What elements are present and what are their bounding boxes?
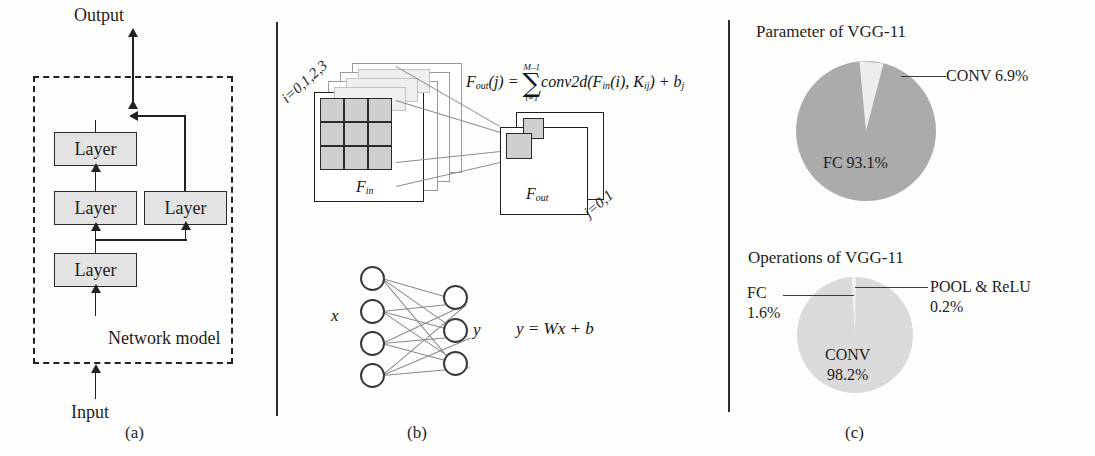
layer-box-middle[interactable]: Layer — [54, 191, 137, 225]
pie2-label-conv-line2: 98.2% — [827, 366, 868, 383]
pie1-leader-line — [901, 76, 946, 77]
branch-tap-horizontal — [95, 239, 187, 241]
fc-output-node-3 — [443, 351, 468, 376]
fin-symbol: F — [356, 178, 366, 195]
panel-a-caption: (a) — [125, 424, 144, 441]
pie2-label-pool-relu-line1: POOL & ReLU — [930, 278, 1031, 295]
fin-subscript: in — [366, 185, 374, 196]
fc-formula: y = Wx + b — [516, 319, 594, 339]
pie2-label-pool-relu-line2: 0.2% — [930, 298, 963, 315]
spine-top-arrowhead — [128, 100, 138, 109]
summation-symbol: M–1 ∑ i=1 — [522, 63, 541, 103]
network-model-label: Network model — [108, 329, 220, 347]
output-arrow-shaft — [132, 36, 134, 76]
conv-formula: Fout(j) = M–1 ∑ i=1 conv2d(Fin(i), Kij) … — [466, 63, 684, 103]
panel-a-network-model: Output Network model Layer Layer Layer L… — [0, 0, 276, 456]
conv-formula-lhs: F — [466, 73, 476, 90]
skip-return-arrowhead — [129, 111, 138, 121]
layer-box-top[interactable]: Layer — [54, 132, 137, 166]
figure-root: Output Network model Layer Layer Layer L… — [0, 0, 1095, 456]
layer-box-bottom[interactable]: Layer — [54, 253, 137, 287]
kernel-cell-r2c2 — [344, 122, 368, 146]
pie1-label-conv: CONV 6.9% — [946, 66, 1028, 86]
input-inner-arrow-shaft — [95, 290, 97, 316]
kernel-cell-r1c2 — [344, 98, 368, 122]
fout-label: Fout — [526, 185, 549, 203]
fc-input-label: x — [331, 306, 339, 326]
kernel-cell-r1c1 — [320, 98, 344, 122]
pie2-label-fc-line2: 1.6% — [747, 304, 780, 321]
panel-c-caption: (c) — [845, 424, 864, 441]
kernel-cell-r3c3 — [368, 146, 392, 170]
conv-formula-rhs-tail2: ) + b — [649, 73, 681, 90]
input-arrow-shaft — [95, 371, 97, 399]
kernel-cell-r1c3 — [368, 98, 392, 122]
pie2-leader-pool-relu — [855, 287, 928, 288]
branch-tap-arrowhead — [181, 221, 191, 230]
kernel-cell-r3c1 — [320, 146, 344, 170]
pie1-label-fc: FC 93.1% — [823, 153, 888, 173]
arrow-bot-to-mid-head — [91, 222, 101, 231]
arrow-top-to-merge-shaft — [95, 120, 97, 132]
pie1-title: Parameter of VGG-11 — [756, 22, 906, 42]
fout-symbol: F — [526, 185, 536, 202]
conv-formula-lhs-arg: (j) = — [489, 73, 519, 90]
arrow-mid-to-top-head — [91, 163, 101, 172]
pie2-leader-fc — [783, 295, 854, 296]
pie2-label-conv-line1: CONV — [825, 346, 870, 363]
output-arrow-head — [128, 28, 138, 37]
input-inner-arrow-head — [91, 284, 101, 293]
output-label: Output — [74, 6, 124, 24]
fin-label: Fin — [356, 178, 374, 196]
panel-c-vgg11-pies: Parameter of VGG-11 FC 93.1% CONV 6.9% O… — [728, 0, 1095, 456]
summation-lower-limit: i=1 — [522, 94, 541, 103]
pie2-label-pool-relu: POOL & ReLU 0.2% — [930, 277, 1031, 317]
kernel-cell-r2c1 — [320, 122, 344, 146]
fc-output-label: y — [473, 320, 481, 340]
fc-input-node-3 — [360, 331, 385, 356]
fc-input-node-2 — [360, 299, 385, 324]
fc-output-node-1 — [443, 285, 468, 310]
output-active-cell — [506, 133, 532, 159]
skip-return-vertical — [184, 115, 186, 191]
summation-glyph: ∑ — [522, 72, 541, 94]
kernel-cell-r3c2 — [344, 146, 368, 170]
fc-input-node-4 — [360, 363, 385, 388]
input-arrow-head — [91, 364, 101, 373]
fc-output-node-2 — [443, 318, 468, 343]
fout-subscript: out — [536, 192, 549, 203]
kernel-cell-r2c3 — [368, 122, 392, 146]
pie2-label-fc: FC 1.6% — [747, 283, 780, 323]
layer-box-branch[interactable]: Layer — [144, 191, 227, 225]
pie2-label-conv: CONV 98.2% — [825, 345, 870, 385]
pie2-title: Operations of VGG-11 — [748, 248, 904, 268]
fc-input-node-1 — [360, 266, 385, 291]
conv-formula-rhs: conv2d(F — [541, 73, 602, 90]
panel-b-conv-and-fc: i=0,1,2,3 Fin Fout — [276, 0, 728, 456]
conv-formula-rhs-sub: in — [602, 80, 610, 91]
skip-return-horizontal — [134, 115, 186, 117]
conv-formula-lhs-sub: out — [476, 80, 489, 91]
panel-b-caption: (b) — [407, 424, 427, 441]
pie2-label-fc-line1: FC — [747, 284, 767, 301]
input-label: Input — [71, 403, 109, 421]
conv-formula-rhs-sub3: j — [682, 80, 685, 91]
conv-formula-rhs-tail: (i), K — [610, 73, 644, 90]
